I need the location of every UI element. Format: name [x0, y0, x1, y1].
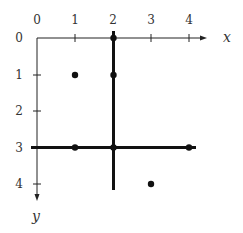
point: [148, 181, 154, 187]
x-tick-label: 3: [147, 13, 155, 27]
point: [72, 144, 78, 150]
y-tick-label: 3: [15, 141, 23, 155]
x-axis-label: x: [223, 29, 231, 45]
x-axis: [37, 34, 207, 42]
y-tick-labels: 0 1 2 3 4: [15, 31, 23, 191]
y-axis-arrow-icon: [35, 194, 40, 201]
point: [186, 144, 192, 150]
point: [110, 144, 116, 150]
point: [72, 72, 78, 78]
y-axis-label: y: [31, 208, 41, 224]
x-axis-arrow-icon: [200, 36, 207, 41]
point: [110, 35, 116, 41]
y-tick-label: 2: [15, 104, 23, 118]
x-tick-label: 0: [33, 13, 41, 27]
x-tick-label: 2: [109, 13, 117, 27]
y-tick-label: 4: [15, 177, 23, 191]
y-axis: [33, 38, 41, 201]
points: [72, 35, 192, 187]
y-tick-label: 0: [15, 31, 23, 45]
x-tick-label: 4: [185, 13, 193, 27]
x-tick-label: 1: [71, 13, 79, 27]
x-tick-labels: 0 1 2 3 4: [33, 13, 193, 27]
point: [110, 72, 116, 78]
y-tick-label: 1: [15, 68, 23, 82]
grid-diagram: 0 1 2 3 4 0 1 2 3 4 x y: [0, 0, 243, 233]
